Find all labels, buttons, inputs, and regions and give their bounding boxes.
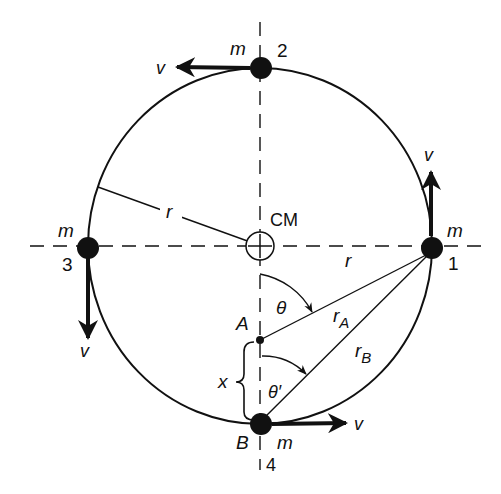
mass-1 [421,237,443,259]
radius-label: r [166,201,173,222]
rB-line [262,253,430,420]
cm-label: CM [270,210,298,230]
mass-3 [77,237,99,259]
point-A [256,336,264,344]
theta-label: θ [276,297,287,318]
mass-label-3: m [58,220,74,241]
point-B-label: B [236,432,249,453]
mass-2 [250,57,272,79]
mass-label-4: m [277,432,293,453]
mass-4 [250,413,272,435]
velocity-label-4: v [354,414,364,434]
theta-prime-label: θ′ [268,382,282,402]
velocity-label-2: v [156,58,166,78]
point-A-label: A [235,313,249,334]
mass-number-1: 1 [448,253,459,274]
mass-number-3: 3 [62,254,73,275]
x-brace [236,342,254,420]
mass-label-2: m [230,38,246,59]
velocity-arrow-4 [272,423,346,424]
rA-label: rA [333,305,349,331]
velocity-label-1: v [424,145,434,165]
velocity-arrow-2 [177,67,250,68]
theta-prime-arc [262,356,306,374]
rB-label: rB [355,340,371,366]
velocity-label-3: v [80,341,90,361]
x-label: x [217,371,229,392]
mass-number-4: 4 [266,455,276,475]
mass-label-1: m [447,220,463,241]
radius-label-horizontal: r [345,250,352,271]
circular-orbit-diagram: r CM r rA rB θ A θ′ x v m 1 v m 2 v m 3 … [0,0,501,494]
mass-number-2: 2 [277,40,288,61]
